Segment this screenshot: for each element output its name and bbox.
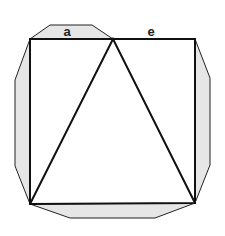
left-flap <box>15 39 30 204</box>
top-flap <box>30 25 113 39</box>
square <box>30 39 195 204</box>
right-flap <box>195 39 210 203</box>
square-triangle-diagram: a e <box>0 0 225 236</box>
label-a: a <box>63 24 71 39</box>
label-e: e <box>147 24 154 39</box>
bottom-flap <box>30 203 195 218</box>
